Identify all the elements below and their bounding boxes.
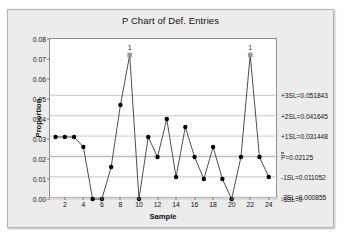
y-axis-tick-mark [47, 139, 50, 140]
x-axis-tick-mark [101, 197, 102, 200]
y-axis-tick-mark [47, 159, 50, 160]
x-axis-tick-mark [268, 197, 269, 200]
x-axis-tick-label: 14 [172, 201, 180, 208]
control-limit-label-pbar: P=0.02125 [281, 153, 313, 160]
plot-inner [50, 39, 276, 197]
control-limit-label-minus-3sl: -3SL=0 [281, 196, 302, 203]
violation-label-sample-22: 1 [248, 44, 252, 51]
x-axis-tick-label: 6 [100, 201, 104, 208]
y-axis-tick-label: 0.02 [33, 156, 46, 163]
x-axis-tick-label: 16 [191, 201, 199, 208]
plot-area: Proportion Sample +3SL=0.051843+2SL=0.04… [49, 38, 277, 198]
x-axis-tick-mark [194, 197, 195, 200]
x-axis-tick-mark [64, 197, 65, 200]
y-axis-tick-label: 0.07 [33, 56, 46, 63]
chart-canvas [50, 39, 278, 199]
x-axis-tick-mark [120, 197, 121, 200]
control-limit-label-minus-1sl: -1SL=0.011052 [281, 173, 326, 180]
y-axis-tick-label: 0.04 [33, 116, 46, 123]
x-axis-tick-mark [157, 197, 158, 200]
y-axis-tick-mark [47, 99, 50, 100]
x-axis-tick-mark [138, 197, 139, 200]
x-axis-tick-label: 18 [209, 201, 217, 208]
x-axis-tick-label: 22 [246, 201, 254, 208]
control-limit-label-plusminus-1sl: +1SL=0.031448 [281, 133, 328, 140]
x-axis-tick-label: 24 [265, 201, 273, 208]
p-bar-symbol: P [281, 153, 285, 160]
y-axis-tick-label: 0.06 [33, 76, 46, 83]
x-axis-tick-mark [83, 197, 84, 200]
y-axis-tick-label: 0.00 [33, 196, 46, 203]
chart-title: P Chart of Def. Entries [8, 15, 333, 26]
y-axis-tick-mark [47, 199, 50, 200]
y-axis-tick-label: 0.03 [33, 136, 46, 143]
x-axis-tick-mark [250, 197, 251, 200]
x-axis-tick-label: 20 [228, 201, 236, 208]
y-axis-tick-mark [47, 39, 50, 40]
y-axis-tick-mark [47, 179, 50, 180]
violation-label-sample-9: 1 [128, 44, 132, 51]
x-axis-tick-label: 8 [119, 201, 123, 208]
x-axis-tick-mark [176, 197, 177, 200]
x-axis-tick-label: 4 [81, 201, 85, 208]
x-axis-title: Sample [50, 212, 276, 221]
y-axis-tick-mark [47, 79, 50, 80]
y-axis-tick-label: 0.01 [33, 176, 46, 183]
y-axis-tick-mark [47, 59, 50, 60]
y-axis-tick-mark [47, 119, 50, 120]
y-axis-tick-label: 0.08 [33, 36, 46, 43]
chart-window: P Chart of Def. Entries Proportion Sampl… [7, 9, 334, 228]
y-axis-tick-label: 0.05 [33, 96, 46, 103]
x-axis-tick-label: 10 [135, 201, 143, 208]
x-axis-tick-mark [231, 197, 232, 200]
control-limit-label-plusminus-3sl: +3SL=0.051843 [281, 92, 328, 99]
x-axis-tick-label: 2 [63, 201, 67, 208]
x-axis-tick-label: 12 [154, 201, 162, 208]
control-limit-label-plusminus-2sl: +2SL=0.041645 [281, 112, 328, 119]
x-axis-tick-mark [213, 197, 214, 200]
